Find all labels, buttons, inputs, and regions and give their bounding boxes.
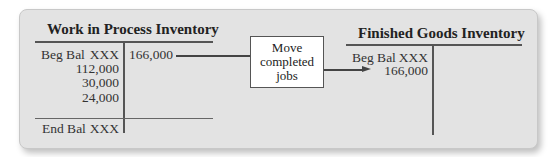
wip-beg-bal-label: Beg Bal (41, 48, 85, 62)
fg-top-rule (346, 44, 522, 46)
arrow-line (324, 69, 364, 71)
transfer-box-line-2: completed (251, 55, 323, 69)
wip-account-title: Work in Process Inventory (47, 21, 219, 38)
fg-debit-transfer: 166,000 (368, 64, 428, 78)
wip-debit-overhead: 24,000 (60, 91, 119, 105)
wip-beg-bal-value: XXX (80, 48, 119, 62)
fg-account-title: Finished Goods Inventory (358, 25, 525, 42)
wip-debit-materials: 112,000 (60, 62, 119, 76)
transfer-box: Move completed jobs (250, 36, 324, 88)
fg-center-rule (432, 45, 434, 135)
transfer-box-line-1: Move (251, 41, 323, 55)
transfer-box-line-3: jobs (251, 69, 323, 83)
wip-credit-transfer: 166,000 (129, 48, 173, 62)
wip-ending-rule (35, 118, 213, 119)
connector-line (176, 55, 250, 57)
wip-center-rule (123, 42, 125, 133)
wip-debit-labor: 30,000 (60, 76, 119, 90)
wip-end-bal-value: XXX (80, 122, 119, 136)
